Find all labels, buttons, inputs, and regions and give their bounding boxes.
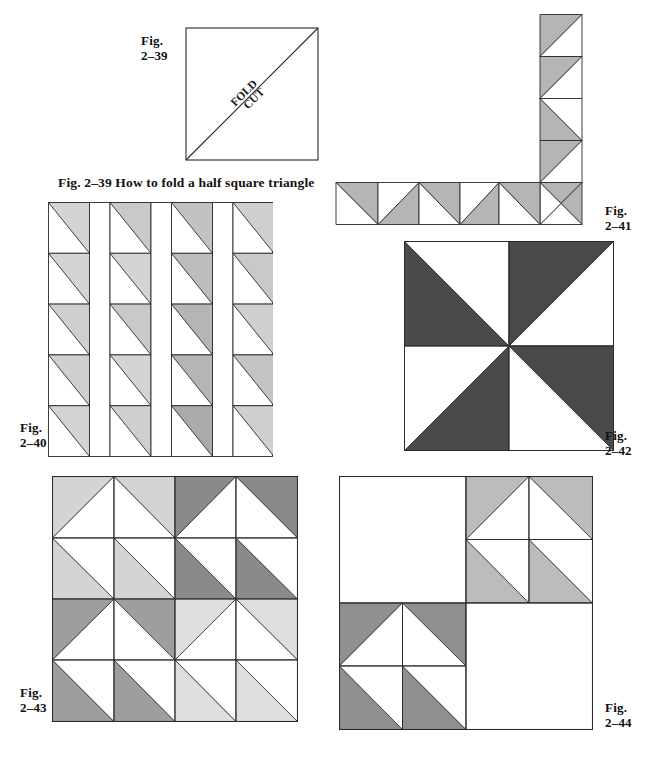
figure-2-41-label-line2: 2–41	[605, 218, 632, 233]
block-2-44-top-right	[466, 477, 593, 604]
figure-2-40-label: Fig. 2–40	[20, 420, 47, 451]
figure-2-44-label-line2: 2–44	[605, 715, 632, 730]
figure-2-40-label-line1: Fig.	[20, 420, 47, 435]
strip-column-4	[233, 203, 273, 457]
plain-square-bottom-right	[466, 603, 593, 730]
strip-column-2	[110, 203, 172, 457]
figure-2-43	[52, 476, 298, 722]
plain-square-top-left	[340, 477, 467, 604]
figure-2-42-label-line2: 2–42	[605, 443, 632, 458]
figure-2-44-drawing	[339, 476, 593, 730]
figure-2-40-drawing	[48, 202, 273, 458]
figure-2-42-label: Fig. 2–42	[605, 428, 632, 459]
figure-2-39-label-line2: 2–39	[141, 48, 168, 63]
vertical-arm	[540, 15, 582, 183]
figure-2-39-label-line1: Fig.	[141, 33, 168, 48]
figure-2-41-label-line1: Fig.	[605, 203, 632, 218]
strip-column-3	[172, 203, 234, 457]
spacer-strip-2	[151, 203, 172, 457]
figure-2-39-drawing: FOLD CUT	[185, 27, 319, 161]
figure-2-43-label-line1: Fig.	[20, 685, 47, 700]
figure-2-40	[48, 202, 273, 458]
figure-2-44-label-line1: Fig.	[605, 700, 632, 715]
figure-2-39-caption: Fig. 2–39 How to fold a half square tria…	[58, 175, 314, 191]
figure-2-41	[335, 14, 603, 226]
strip-column-1	[49, 203, 111, 457]
figure-2-41-label: Fig. 2–41	[605, 203, 632, 234]
figure-2-43-label-line2: 2–43	[20, 700, 47, 715]
figure-2-40-label-line2: 2–40	[20, 435, 47, 450]
triangle-units-2	[110, 203, 151, 457]
figure-2-42-drawing	[404, 241, 614, 451]
figure-2-44-label: Fig. 2–44	[605, 700, 632, 731]
triangle-units-3	[172, 203, 213, 457]
triangle-units-4	[233, 203, 273, 457]
horizontal-arm	[336, 183, 540, 225]
figure-2-42	[404, 241, 614, 451]
figure-2-39: FOLD CUT	[185, 27, 319, 161]
block-2-44-bottom-left	[340, 603, 467, 730]
figure-2-39-label: Fig. 2–39	[141, 33, 168, 64]
spacer-strip-1	[90, 203, 111, 457]
figure-2-43-drawing	[52, 476, 298, 722]
figure-2-44	[339, 476, 593, 730]
figure-page: FOLD CUT Fig. 2–39 Fig. 2–39 How to fold…	[0, 0, 656, 776]
spacer-strip-3	[213, 203, 234, 457]
figure-2-41-drawing	[335, 14, 603, 226]
triangle-units-1	[49, 203, 90, 457]
figure-2-43-label: Fig. 2–43	[20, 685, 47, 716]
figure-2-42-label-line1: Fig.	[605, 428, 632, 443]
corner-pinwheel	[540, 183, 582, 225]
